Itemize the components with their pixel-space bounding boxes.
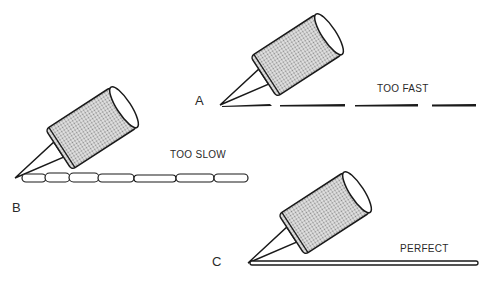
bead-too-fast	[222, 104, 476, 107]
panel-letter-a: A	[195, 93, 204, 108]
panel-letter-b: B	[12, 200, 21, 215]
panel-a: A TOO FAST	[195, 10, 476, 125]
caption-too-fast: TOO FAST	[377, 83, 429, 94]
bead-too-slow	[22, 173, 248, 182]
caulking-diagram: A TOO FAST B TOO SLOW C	[0, 0, 495, 282]
panel-letter-c: C	[212, 254, 221, 269]
panel-b: B TOO SLOW	[2, 83, 248, 215]
caulk-gun-a-icon	[207, 10, 348, 125]
bead-perfect	[250, 261, 478, 265]
panel-c: C PERFECT	[212, 168, 478, 282]
caption-too-slow: TOO SLOW	[170, 149, 226, 160]
caption-perfect: PERFECT	[400, 243, 449, 254]
